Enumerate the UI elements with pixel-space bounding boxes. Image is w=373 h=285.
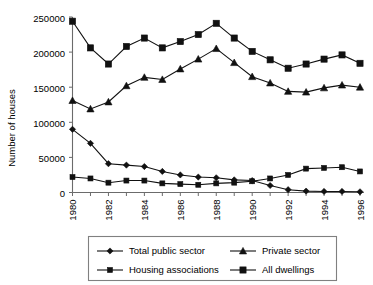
- data-point-marker-square: [322, 165, 327, 170]
- y-tick-label: 50000: [39, 153, 65, 164]
- data-point-marker-square: [232, 180, 237, 185]
- data-point-marker-square: [105, 61, 111, 67]
- data-point-marker-square: [231, 35, 237, 41]
- legend-label: Total public sector: [129, 245, 205, 256]
- line-chart: Number of houses 0 50000 100000 150000 2…: [0, 0, 373, 285]
- data-point-marker-square: [249, 48, 255, 54]
- data-point-marker-square: [123, 43, 129, 49]
- data-point-marker-square: [304, 166, 309, 171]
- series-private-sector: [69, 45, 364, 112]
- data-point-marker-square: [160, 181, 165, 186]
- chart-container: Number of houses 0 50000 100000 150000 2…: [0, 0, 373, 285]
- x-tick-label: 1982: [103, 200, 114, 221]
- data-point-marker-square: [240, 267, 246, 273]
- legend-item[interactable]: Housing associations: [97, 264, 219, 275]
- legend-label: All dwellings: [262, 264, 315, 275]
- legend-item[interactable]: Private sector: [230, 245, 320, 256]
- data-point-marker-diamond: [159, 168, 165, 174]
- data-point-marker-diamond: [195, 174, 201, 180]
- x-axis-labels: 198019821984198619881990199219941996: [67, 200, 366, 221]
- data-point-marker-square: [159, 45, 165, 51]
- data-point-marker-diamond: [357, 189, 363, 195]
- legend: Total public sectorPrivate sectorHousing…: [97, 245, 320, 275]
- data-point-marker-square: [285, 65, 291, 71]
- legend-item[interactable]: Total public sector: [97, 245, 205, 256]
- data-point-marker-diamond: [267, 182, 273, 188]
- data-point-marker-square: [178, 182, 183, 187]
- data-point-marker-triangle: [213, 45, 220, 52]
- data-point-marker-square: [69, 18, 75, 24]
- data-point-marker-diamond: [213, 175, 219, 181]
- x-tick-label: 1984: [139, 200, 150, 221]
- data-point-marker-square: [267, 57, 273, 63]
- y-tick-label: 100000: [33, 118, 65, 129]
- legend-item[interactable]: All dwellings: [230, 264, 315, 275]
- data-point-marker-square: [106, 180, 111, 185]
- x-tick-label: 1996: [355, 200, 366, 221]
- data-point-marker-diamond: [285, 187, 291, 193]
- data-point-marker-square: [108, 268, 113, 273]
- data-point-marker-square: [321, 56, 327, 62]
- data-point-marker-square: [124, 178, 129, 183]
- data-point-marker-square: [340, 165, 345, 170]
- data-point-marker-square: [196, 182, 201, 187]
- data-point-marker-square: [268, 176, 273, 181]
- series-layer: [69, 18, 364, 195]
- data-point-marker-square: [339, 52, 345, 58]
- legend-label: Private sector: [262, 245, 320, 256]
- data-point-marker-square: [177, 38, 183, 44]
- data-point-marker-triangle: [177, 65, 184, 72]
- data-point-marker-square: [87, 45, 93, 51]
- data-point-marker-triangle: [69, 97, 76, 104]
- data-point-marker-square: [357, 60, 363, 66]
- data-point-marker-diamond: [107, 248, 113, 254]
- y-tick-label: 250000: [33, 13, 65, 24]
- data-point-marker-square: [358, 169, 363, 174]
- data-point-marker-square: [214, 181, 219, 186]
- data-point-marker-square: [70, 175, 75, 180]
- x-tick-label: 1980: [67, 200, 78, 221]
- x-tick-label: 1990: [247, 200, 258, 221]
- data-point-marker-triangle: [195, 56, 202, 63]
- data-point-marker-triangle: [141, 74, 148, 81]
- x-tick-label: 1988: [211, 200, 222, 221]
- data-point-marker-square: [213, 20, 219, 26]
- y-axis-ticks: 0 50000 100000 150000 200000 250000: [33, 13, 65, 199]
- data-point-marker-square: [141, 35, 147, 41]
- legend-label: Housing associations: [129, 264, 219, 275]
- data-point-marker-diamond: [177, 172, 183, 178]
- y-axis-title: Number of houses: [6, 89, 17, 167]
- data-point-marker-diamond: [339, 188, 345, 194]
- data-point-marker-diamond: [123, 162, 129, 168]
- data-point-marker-square: [142, 178, 147, 183]
- y-tick-label: 0: [60, 188, 65, 199]
- data-point-marker-diamond: [141, 163, 147, 169]
- y-tick-label: 200000: [33, 48, 65, 59]
- data-point-marker-square: [195, 31, 201, 37]
- data-point-marker-square: [88, 176, 93, 181]
- x-tick-label: 1986: [175, 200, 186, 221]
- data-point-marker-square: [250, 179, 255, 184]
- data-point-marker-diamond: [303, 188, 309, 194]
- y-tick-label: 150000: [33, 83, 65, 94]
- data-point-marker-square: [286, 172, 291, 177]
- data-point-marker-square: [303, 61, 309, 67]
- x-tick-label: 1992: [283, 200, 294, 221]
- data-point-marker-triangle: [87, 105, 94, 112]
- x-tick-label: 1994: [319, 200, 330, 221]
- data-point-marker-diamond: [321, 188, 327, 194]
- data-point-marker-triangle: [338, 81, 345, 88]
- data-point-marker-triangle: [123, 82, 130, 89]
